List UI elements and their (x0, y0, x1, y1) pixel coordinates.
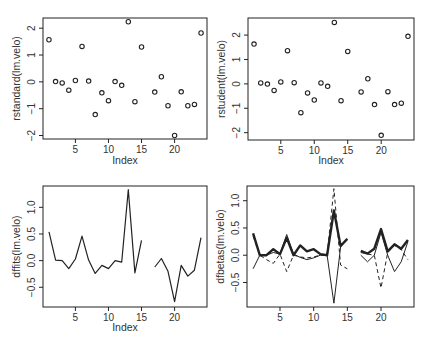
y-axis-title: dffits(lm.velo) (10, 215, 22, 277)
x-tick-label: 5 (278, 145, 284, 156)
data-point (305, 91, 309, 95)
data-point (292, 80, 296, 84)
data-point (399, 101, 403, 105)
data-point (285, 48, 289, 52)
data-layer (252, 20, 410, 137)
data-point (73, 78, 77, 82)
panel-dfbetas: 5101520−0.50.00.51.0dfbetas(lm.velo) (214, 186, 414, 323)
y-tick-label: 0.0 (230, 248, 241, 262)
data-point (53, 79, 57, 83)
x-axis-title: Index (112, 321, 138, 333)
data-point (133, 100, 137, 104)
data-point (312, 98, 316, 102)
y-axis-title: rstudent(lm.velo) (215, 40, 227, 118)
x-tick-label: 20 (375, 312, 387, 323)
y-tick-label: −2 (26, 129, 37, 141)
x-axis-title: Index (112, 154, 138, 166)
y-tick-label: 1.0 (230, 193, 241, 207)
data-point (80, 44, 84, 48)
data-point (319, 81, 323, 85)
series-line (361, 245, 408, 288)
x-tick-label: 10 (308, 312, 320, 323)
y-axis-title: rstandard(lm.velo) (10, 36, 22, 121)
y-tick-label: 1 (231, 56, 242, 62)
x-axis: 5101520Index (73, 307, 181, 333)
x-tick-label: 15 (342, 145, 354, 156)
x-axis-title: Index (318, 154, 344, 166)
plot-box (43, 18, 207, 139)
y-tick-label: 2 (26, 25, 37, 31)
y-tick-label: −2 (231, 127, 242, 139)
data-point (359, 90, 363, 94)
y-tick-label: 0.5 (26, 227, 37, 241)
y-tick-label: −0.5 (230, 272, 241, 292)
data-point (86, 79, 90, 83)
data-point (379, 133, 383, 137)
data-point (113, 79, 117, 83)
panel-rstudent: 5101520Index−2−1012rstudent(lm.velo) (215, 18, 414, 166)
diagnostic-plots-figure: 5101520Index−2−1012rstandard(lm.velo) 51… (0, 0, 430, 346)
data-point (166, 104, 170, 108)
x-axis: 5101520 (277, 307, 387, 323)
data-point (279, 80, 283, 84)
y-axis: −0.50.00.51.0dffits(lm.velo) (10, 200, 43, 297)
data-point (386, 89, 390, 93)
y-tick-label: 0 (231, 81, 242, 87)
data-point (179, 90, 183, 94)
data-point (60, 81, 64, 85)
data-point (339, 99, 343, 103)
data-point (392, 102, 396, 106)
y-axis: −2−1012rstandard(lm.velo) (10, 25, 43, 141)
data-point (159, 75, 163, 79)
series-line (253, 189, 347, 272)
y-tick-label: 1.0 (26, 200, 37, 214)
y-tick-label: 1 (26, 52, 37, 58)
y-tick-label: −0.5 (26, 277, 37, 297)
y-tick-label: 0.5 (230, 221, 241, 235)
x-tick-label: 15 (342, 312, 354, 323)
y-tick-label: 0.0 (26, 253, 37, 267)
y-axis-title: dfbetas(lm.velo) (214, 209, 226, 284)
data-point (366, 77, 370, 81)
data-point (199, 31, 203, 35)
data-point (272, 88, 276, 92)
data-layer (47, 20, 203, 138)
data-point (153, 90, 157, 94)
data-point (346, 49, 350, 53)
y-tick-label: 0 (26, 79, 37, 85)
data-point (126, 20, 130, 24)
panel-rstandard: 5101520Index−2−1012rstandard(lm.velo) (10, 18, 207, 166)
data-point (93, 112, 97, 116)
data-point (47, 38, 51, 42)
data-point (139, 45, 143, 49)
x-tick-label: 5 (277, 312, 283, 323)
data-point (192, 102, 196, 106)
x-tick-label: 5 (73, 144, 79, 155)
data-point (100, 91, 104, 95)
y-axis: −2−1012rstudent(lm.velo) (215, 32, 248, 139)
data-layer (49, 190, 201, 302)
data-point (299, 110, 303, 114)
data-layer (253, 189, 408, 304)
x-tick-label: 5 (73, 312, 79, 323)
data-point (332, 20, 336, 24)
data-point (67, 88, 71, 92)
data-point (252, 42, 256, 46)
y-axis: −0.50.00.51.0dfbetas(lm.velo) (214, 193, 247, 292)
series-line (253, 211, 347, 256)
y-tick-label: 2 (231, 32, 242, 38)
series-line (49, 190, 142, 274)
x-tick-label: 20 (169, 312, 181, 323)
plot-box (247, 186, 414, 307)
x-tick-label: 20 (376, 145, 388, 156)
panel-dffits: 5101520Index−0.50.00.51.0dffits(lm.velo) (10, 186, 207, 333)
x-axis: 5101520Index (278, 140, 387, 166)
x-axis: 5101520Index (73, 139, 181, 166)
plot-box (43, 186, 207, 307)
data-point (265, 82, 269, 86)
data-point (119, 83, 123, 87)
data-point (259, 81, 263, 85)
plot-box (248, 18, 414, 140)
data-point (406, 34, 410, 38)
data-point (172, 133, 176, 137)
